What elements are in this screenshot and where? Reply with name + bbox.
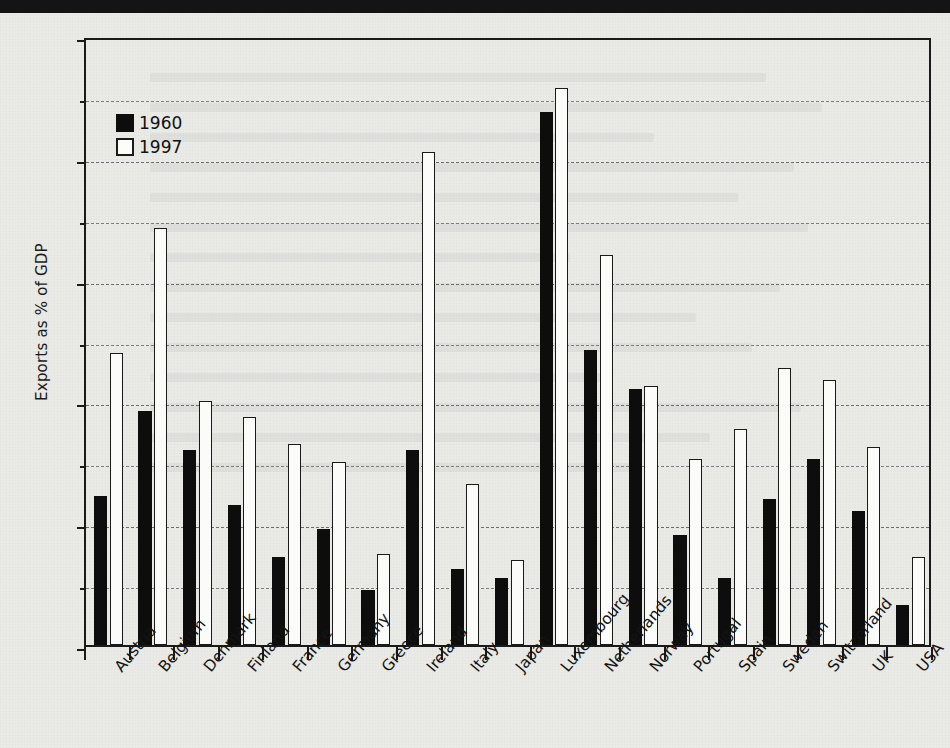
bar	[199, 401, 212, 645]
bar	[288, 444, 301, 645]
bar	[94, 496, 107, 645]
y-tick-mark	[77, 405, 86, 407]
bar	[584, 350, 597, 645]
bar	[332, 462, 345, 645]
x-tick-mark	[84, 647, 86, 660]
bar	[734, 429, 747, 645]
gridline	[86, 101, 929, 102]
gridline	[86, 405, 929, 406]
bar	[466, 484, 479, 645]
y-tick-mark-minor	[80, 223, 86, 225]
bar	[511, 560, 524, 645]
legend-item: 1997	[116, 135, 182, 159]
bar	[495, 578, 508, 645]
gridline	[86, 223, 929, 224]
bar-chart: Exports as % of GDP 020406080100 Austria…	[0, 13, 950, 748]
x-axis-label: UK	[869, 648, 897, 676]
gridline	[86, 527, 929, 528]
y-tick-mark	[77, 284, 86, 286]
bar	[110, 353, 123, 645]
bar	[778, 368, 791, 645]
y-tick-mark-minor	[80, 345, 86, 347]
bar	[138, 411, 151, 645]
gridline	[86, 466, 929, 467]
legend-swatch-1997-icon	[116, 138, 134, 156]
bar	[540, 112, 553, 645]
bar	[422, 152, 435, 645]
y-tick-mark	[77, 527, 86, 529]
bar	[823, 380, 836, 645]
legend-item: 1960	[116, 111, 182, 135]
bar	[629, 389, 642, 645]
chart-legend: 1960 1997	[116, 111, 182, 159]
gridline	[86, 284, 929, 285]
bar	[154, 228, 167, 645]
scanned-page-edge	[0, 0, 950, 13]
legend-label: 1960	[139, 113, 182, 133]
y-tick-mark-minor	[80, 466, 86, 468]
gridline	[86, 162, 929, 163]
legend-label: 1997	[139, 137, 182, 157]
bar	[689, 459, 702, 645]
bar	[896, 605, 909, 645]
y-tick-mark-minor	[80, 101, 86, 103]
legend-swatch-1960-icon	[116, 114, 134, 132]
bar	[406, 450, 419, 645]
bar	[763, 499, 776, 645]
bar	[912, 557, 925, 645]
bar	[555, 88, 568, 645]
gridline	[86, 345, 929, 346]
bar	[600, 255, 613, 645]
y-tick-mark-minor	[80, 588, 86, 590]
plot-area: 020406080100	[84, 38, 931, 647]
y-tick-mark	[77, 40, 86, 42]
plot-inner	[86, 40, 929, 645]
y-axis-title: Exports as % of GDP	[33, 192, 51, 452]
y-tick-mark	[77, 162, 86, 164]
